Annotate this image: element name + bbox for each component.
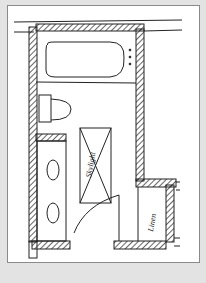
skylight [80,128,111,203]
bathtub [36,42,136,83]
vanity [37,141,66,241]
linen-label: Linen [146,213,158,234]
floor-plan-drawing: Skylight Linen [0,0,206,283]
toilet [39,95,71,122]
